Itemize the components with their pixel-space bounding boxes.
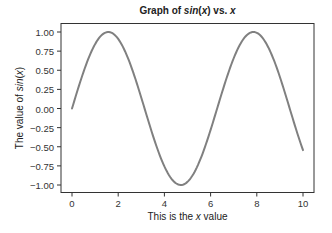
axes-frame: [61, 24, 314, 193]
tick-marks: [57, 32, 303, 197]
plot-area: [0, 0, 332, 233]
chart-figure: Graph of sin(x) vs. x The value of sin(x…: [0, 0, 332, 233]
sine-curve: [72, 32, 303, 185]
